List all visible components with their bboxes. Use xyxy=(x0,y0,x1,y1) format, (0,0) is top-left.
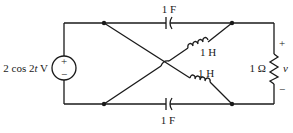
source-label: 2 cos 2t V xyxy=(3,62,48,74)
output-voltage-label: v xyxy=(283,62,288,74)
output-minus-sign: − xyxy=(279,83,285,95)
capacitor-top-icon xyxy=(104,17,232,29)
capacitor-bottom-icon xyxy=(104,98,232,110)
voltage-source-icon: + − xyxy=(52,55,76,80)
inductor-lower-label: 1 H xyxy=(198,67,214,79)
circuit-diagram: + − 2 cos 2t V 1 F 1 F 1 H 1 H xyxy=(0,0,293,133)
capacitor-top-label: 1 F xyxy=(162,3,176,15)
resistor-icon xyxy=(270,54,278,84)
source-plus-sign: + xyxy=(61,55,67,67)
left-branch xyxy=(64,23,104,104)
capacitor-bottom-label: 1 F xyxy=(161,114,175,126)
inductor-upper-label: 1 H xyxy=(200,46,216,58)
source-minus-sign: − xyxy=(61,68,67,80)
resistor-label: 1 Ω xyxy=(250,62,266,74)
output-plus-sign: + xyxy=(279,37,285,49)
